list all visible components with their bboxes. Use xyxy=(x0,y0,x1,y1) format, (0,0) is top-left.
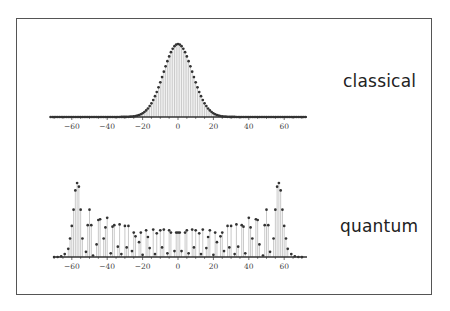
data-point xyxy=(118,223,121,226)
data-point xyxy=(139,231,142,234)
data-point xyxy=(127,225,130,228)
data-point xyxy=(154,95,157,98)
data-point xyxy=(205,105,208,108)
data-point xyxy=(249,226,252,229)
data-point xyxy=(187,60,190,63)
data-point xyxy=(170,231,173,234)
data-point xyxy=(201,228,204,231)
data-point xyxy=(134,235,137,238)
data-point xyxy=(72,208,75,211)
data-point xyxy=(278,182,281,185)
data-point xyxy=(171,47,174,50)
data-point xyxy=(205,247,208,250)
data-point xyxy=(120,253,123,256)
x-tick-label: 0 xyxy=(176,122,181,131)
data-point xyxy=(242,225,245,228)
data-point xyxy=(164,65,167,68)
data-point xyxy=(155,232,158,235)
data-point xyxy=(159,81,162,84)
data-point xyxy=(56,256,59,259)
data-point xyxy=(267,224,270,227)
data-point xyxy=(161,76,164,79)
data-point xyxy=(102,237,105,240)
data-point xyxy=(159,229,162,232)
data-point xyxy=(201,99,204,102)
data-point xyxy=(104,226,107,229)
data-point xyxy=(285,237,288,240)
data-point xyxy=(207,236,210,239)
x-tick-label: 60 xyxy=(279,262,289,271)
data-point xyxy=(88,208,91,211)
data-point xyxy=(189,65,192,68)
data-point xyxy=(148,105,151,108)
data-point xyxy=(131,250,134,253)
data-point xyxy=(125,246,128,249)
data-point xyxy=(283,225,286,228)
data-point xyxy=(196,86,199,89)
data-point xyxy=(193,76,196,79)
data-point xyxy=(279,189,282,192)
data-point xyxy=(141,253,144,256)
data-point xyxy=(269,250,272,253)
data-point xyxy=(63,253,66,256)
data-point xyxy=(209,229,212,232)
data-point xyxy=(290,253,293,256)
data-point xyxy=(166,60,169,63)
data-point xyxy=(301,256,304,259)
x-tick-label: −60 xyxy=(64,122,80,131)
data-point xyxy=(219,235,222,238)
data-point xyxy=(148,247,151,250)
data-point xyxy=(258,243,261,246)
data-point xyxy=(162,228,165,231)
data-point xyxy=(81,237,84,240)
data-point xyxy=(304,116,307,119)
data-point xyxy=(226,225,229,228)
data-point xyxy=(168,229,171,232)
data-point xyxy=(281,208,284,211)
x-tick-label: −40 xyxy=(99,122,115,131)
x-tick-label: −20 xyxy=(135,122,151,131)
classical-chart: −60−40−200204060 xyxy=(49,43,307,131)
data-point xyxy=(147,107,150,110)
x-tick-label: 20 xyxy=(209,262,219,271)
data-point xyxy=(237,245,240,248)
data-point xyxy=(251,237,254,240)
data-point xyxy=(92,254,95,257)
data-point xyxy=(150,102,153,105)
data-point xyxy=(157,86,160,89)
x-tick-label: 20 xyxy=(209,122,219,131)
data-point xyxy=(272,237,275,240)
data-point xyxy=(109,252,112,255)
data-point xyxy=(184,51,187,54)
data-point xyxy=(53,256,56,259)
data-point xyxy=(178,231,181,234)
data-point xyxy=(78,185,81,188)
data-point xyxy=(79,208,82,211)
data-point xyxy=(147,236,150,239)
quantum-chart: −60−40−200204060 xyxy=(53,182,307,271)
x-tick-label: 40 xyxy=(244,262,254,271)
data-point xyxy=(230,225,233,228)
data-point xyxy=(244,252,247,255)
data-point xyxy=(297,256,300,259)
data-point xyxy=(191,70,194,73)
quantum-label: quantum xyxy=(340,216,418,236)
x-tick-label: 40 xyxy=(244,122,254,131)
data-point xyxy=(99,218,102,221)
data-point xyxy=(152,99,155,102)
data-point xyxy=(168,55,171,58)
data-point xyxy=(198,232,201,235)
data-point xyxy=(286,248,289,251)
data-point xyxy=(170,51,173,54)
data-point xyxy=(155,91,158,94)
data-point xyxy=(182,47,185,50)
data-point xyxy=(186,55,189,58)
data-point xyxy=(203,102,206,105)
data-point xyxy=(60,255,63,258)
data-point xyxy=(216,241,219,244)
data-point xyxy=(180,45,183,48)
data-point xyxy=(198,91,201,94)
x-tick-label: −20 xyxy=(135,262,151,271)
data-point xyxy=(212,253,215,256)
data-point xyxy=(256,219,259,222)
